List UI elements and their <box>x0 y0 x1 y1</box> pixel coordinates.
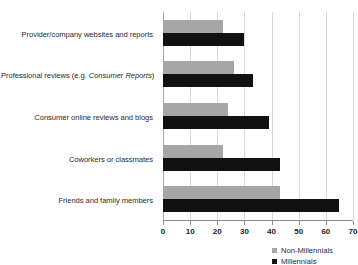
legend-item[interactable]: Millennials <box>272 256 358 265</box>
x-axis-tick-label: 70 <box>349 227 358 236</box>
bar-non-millennials <box>163 20 223 33</box>
legend-swatch-icon <box>272 248 277 253</box>
category-label: Friends and family members <box>1 196 153 205</box>
bar-millennials <box>163 116 269 129</box>
x-axis-tick <box>163 221 164 225</box>
bar-millennials <box>163 158 280 171</box>
gridline <box>353 12 354 220</box>
bar-millennials <box>163 199 339 212</box>
x-axis-tick <box>353 221 354 225</box>
bar-non-millennials <box>163 61 234 74</box>
category-label: Provider/company websites and reports <box>1 30 153 39</box>
category-axis-labels: Provider/company websites and reportsPro… <box>0 14 158 220</box>
legend-label: Millennials <box>281 257 316 265</box>
x-axis-tick <box>190 221 191 225</box>
bar-non-millennials <box>163 103 228 116</box>
bar-group <box>163 61 353 87</box>
legend-label: Non-Millennials <box>281 246 333 255</box>
bar-millennials <box>163 33 244 46</box>
x-axis-tick-label: 40 <box>267 227 276 236</box>
plot-area <box>163 12 353 220</box>
x-axis <box>163 220 353 226</box>
category-label: Professional reviews (e.g. Consumer Repo… <box>1 71 153 80</box>
x-axis-tick <box>244 221 245 225</box>
legend-swatch-icon <box>272 259 277 264</box>
x-axis-tick <box>217 221 218 225</box>
x-axis-tick <box>299 221 300 225</box>
bar-group <box>163 20 353 46</box>
bar-group <box>163 145 353 171</box>
bar-non-millennials <box>163 186 280 199</box>
bar-non-millennials <box>163 145 223 158</box>
x-axis-tick <box>326 221 327 225</box>
chart-legend: Non-MillennialsMillennials <box>272 245 358 265</box>
x-axis-tick-label: 30 <box>240 227 249 236</box>
bar-group <box>163 103 353 129</box>
x-axis-tick-label: 60 <box>321 227 330 236</box>
x-axis-tick <box>272 221 273 225</box>
x-axis-tick-label: 0 <box>161 227 165 236</box>
bar-chart: Provider/company websites and reportsPro… <box>0 0 358 265</box>
x-axis-tick-label: 20 <box>213 227 222 236</box>
category-label: Coworkers or classmates <box>1 155 153 164</box>
x-axis-tick-label: 10 <box>186 227 195 236</box>
bar-group <box>163 186 353 212</box>
legend-item[interactable]: Non-Millennials <box>272 245 358 255</box>
x-axis-tick-label: 50 <box>294 227 303 236</box>
category-label: Consumer online reviews and blogs <box>1 113 153 122</box>
bar-millennials <box>163 74 253 87</box>
